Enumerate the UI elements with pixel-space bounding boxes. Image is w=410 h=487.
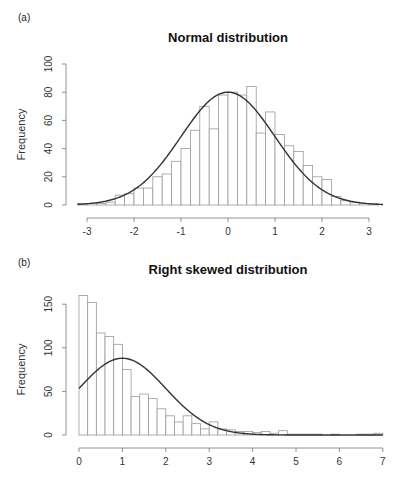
x-tick-label: 1: [272, 226, 278, 237]
histogram-bar: [228, 92, 237, 205]
histogram-bar: [122, 370, 131, 435]
histogram-bar: [125, 194, 134, 205]
x-tick-label: -1: [177, 226, 186, 237]
histogram-normal: 020406080100Frequency-3-2-10123: [15, 55, 383, 237]
histogram-bar: [284, 146, 293, 205]
histogram-bar: [131, 397, 140, 435]
histogram-bar: [209, 422, 218, 435]
histogram-bar: [162, 174, 171, 205]
y-tick-label: 0: [43, 432, 54, 438]
histogram-bar: [201, 429, 210, 435]
y-tick-label: 60: [43, 114, 54, 126]
x-tick-label: -3: [83, 226, 92, 237]
x-tick-label: 2: [319, 226, 325, 237]
histogram-bar: [183, 416, 192, 435]
histogram-bar: [294, 151, 303, 205]
histogram-bar: [172, 161, 181, 205]
histogram-bar: [166, 416, 175, 435]
x-tick-label: 0: [225, 226, 231, 237]
histogram-bar: [143, 188, 152, 205]
histogram-bar: [181, 149, 190, 205]
histogram-bar: [200, 106, 209, 205]
histogram-bar: [105, 336, 114, 435]
y-tick-label: 150: [43, 295, 54, 312]
x-tick-label: 0: [76, 456, 82, 467]
histogram-bar: [174, 422, 183, 435]
histogram-bar: [153, 177, 162, 205]
histogram-bar: [96, 333, 105, 435]
y-tick-label: 0: [43, 202, 54, 208]
histogram-bar: [106, 202, 115, 205]
x-tick-label: 7: [380, 456, 386, 467]
y-tick-label: 40: [43, 143, 54, 155]
y-tick-label: 50: [43, 385, 54, 397]
histogram-bar: [88, 302, 97, 435]
histogram-bar: [134, 188, 143, 205]
x-tick-label: 4: [250, 456, 256, 467]
histogram-figure: 020406080100Frequency-3-2-10123 05010015…: [0, 0, 410, 487]
histogram-bar: [256, 133, 265, 205]
histogram-bar: [275, 135, 284, 206]
histogram-bar: [313, 177, 322, 205]
x-tick-label: -2: [130, 226, 139, 237]
histogram-bar: [140, 394, 149, 435]
histogram-bar: [192, 424, 201, 435]
histogram-bar: [247, 87, 256, 205]
x-tick-label: 3: [366, 226, 372, 237]
y-tick-label: 100: [43, 339, 54, 356]
y-tick-label: 20: [43, 171, 54, 183]
histogram-bar: [148, 398, 157, 435]
y-axis-label: Frequency: [15, 108, 27, 160]
x-tick-label: 2: [163, 456, 169, 467]
histogram-bar: [157, 409, 166, 435]
histogram-bar: [96, 204, 105, 205]
x-tick-label: 3: [206, 456, 212, 467]
x-tick-label: 5: [293, 456, 299, 467]
histogram-bar: [303, 166, 312, 205]
y-axis-label: Frequency: [15, 343, 27, 395]
histogram-bar: [219, 95, 228, 205]
histogram-bar: [237, 95, 246, 205]
histogram-bar: [190, 130, 199, 205]
y-tick-label: 80: [43, 86, 54, 98]
histogram-bar: [79, 295, 88, 435]
y-tick-label: 100: [43, 55, 54, 72]
x-tick-label: 1: [120, 456, 126, 467]
x-tick-label: 6: [337, 456, 343, 467]
histogram-bar: [209, 129, 218, 205]
histogram-right-skewed: 050100150Frequency01234567: [15, 295, 386, 467]
